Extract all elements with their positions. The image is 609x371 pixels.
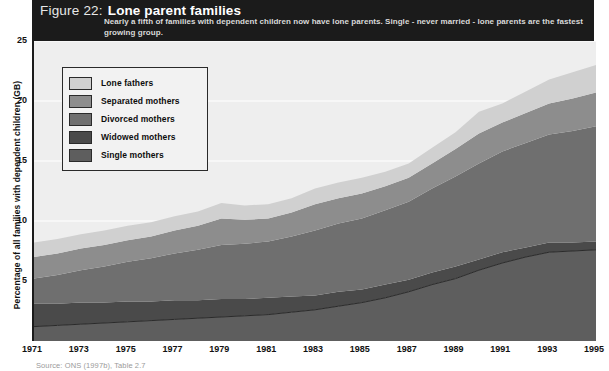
legend-item-label: Widowed mothers [101,132,176,142]
legend-item-divorced-mothers[interactable]: Divorced mothers [69,110,201,128]
chart-subtitle: Nearly a fifth of families with dependen… [104,17,584,38]
chart-header: Figure 22:Lone parent families Nearly a … [32,0,594,41]
x-axis-tick-labels: 1971197319751977197919811983198519871989… [0,344,594,360]
x-tick-label: 1983 [293,344,333,354]
y-tick-label: 25 [0,35,27,45]
x-tick-label: 1975 [106,344,146,354]
legend-item-widowed-mothers[interactable]: Widowed mothers [69,128,201,146]
x-tick-label: 1971 [12,344,52,354]
x-tick-label: 1993 [527,344,567,354]
x-tick-label: 1981 [246,344,286,354]
x-tick-label: 1991 [480,344,520,354]
legend-item-lone-fathers[interactable]: Lone fathers [69,74,201,92]
legend-swatch-icon [69,77,92,90]
y-tick-label: 20 [0,95,27,105]
chart-legend: Lone fathersSeparated mothersDivorced mo… [62,67,208,171]
legend-item-label: Single mothers [101,150,164,160]
legend-swatch-icon [69,113,92,126]
x-tick-label: 1985 [340,344,380,354]
x-tick-label: 1973 [59,344,99,354]
legend-swatch-icon [69,131,92,144]
x-tick-label: 1979 [199,344,239,354]
x-tick-label: 1987 [387,344,427,354]
legend-item-label: Separated mothers [101,96,180,106]
legend-item-single-mothers[interactable]: Single mothers [69,146,201,164]
y-tick-label: 10 [0,215,27,225]
legend-swatch-icon [69,149,92,162]
source-note: Source: ONS (1997b), Table 2.7 [36,361,146,370]
page-title: Lone parent families [108,3,241,18]
legend-item-separated-mothers[interactable]: Separated mothers [69,92,201,110]
legend-swatch-icon [69,95,92,108]
y-axis-tick-labels: 510152025 [0,0,30,371]
x-tick-label: 1995 [574,344,609,354]
y-tick-label: 5 [0,275,27,285]
legend-item-label: Lone fathers [101,78,153,88]
figure-number: Figure 22: [40,3,103,18]
legend-item-label: Divorced mothers [101,114,175,124]
x-tick-label: 1977 [153,344,193,354]
y-tick-label: 15 [0,155,27,165]
x-tick-label: 1989 [434,344,474,354]
